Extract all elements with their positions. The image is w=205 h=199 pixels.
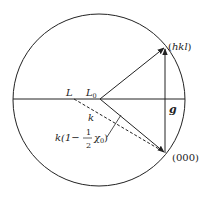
ewald-diagram: L L 0 (hkl) (000) g k k(1− 1 2 χ 0 ) <box>0 0 205 199</box>
label-hkl: (hkl) <box>168 41 192 52</box>
label-origin-000: (000) <box>172 152 199 163</box>
svg-text:0: 0 <box>93 92 97 100</box>
svg-text:2: 2 <box>86 141 91 150</box>
svg-text:1: 1 <box>86 128 91 137</box>
label-L0: L 0 <box>85 87 97 100</box>
svg-text:): ) <box>104 132 108 143</box>
label-L: L <box>65 87 73 98</box>
svg-text:k(1−: k(1− <box>55 132 80 143</box>
svg-text:(hkl): (hkl) <box>168 41 192 52</box>
label-k: k <box>88 112 94 123</box>
k-incident-arrow <box>100 99 164 152</box>
k-diffracted-arrow <box>100 48 164 99</box>
label-k-expression: k(1− 1 2 χ 0 ) <box>55 128 108 150</box>
label-g: g <box>169 103 177 116</box>
ewald-circle <box>13 14 185 186</box>
